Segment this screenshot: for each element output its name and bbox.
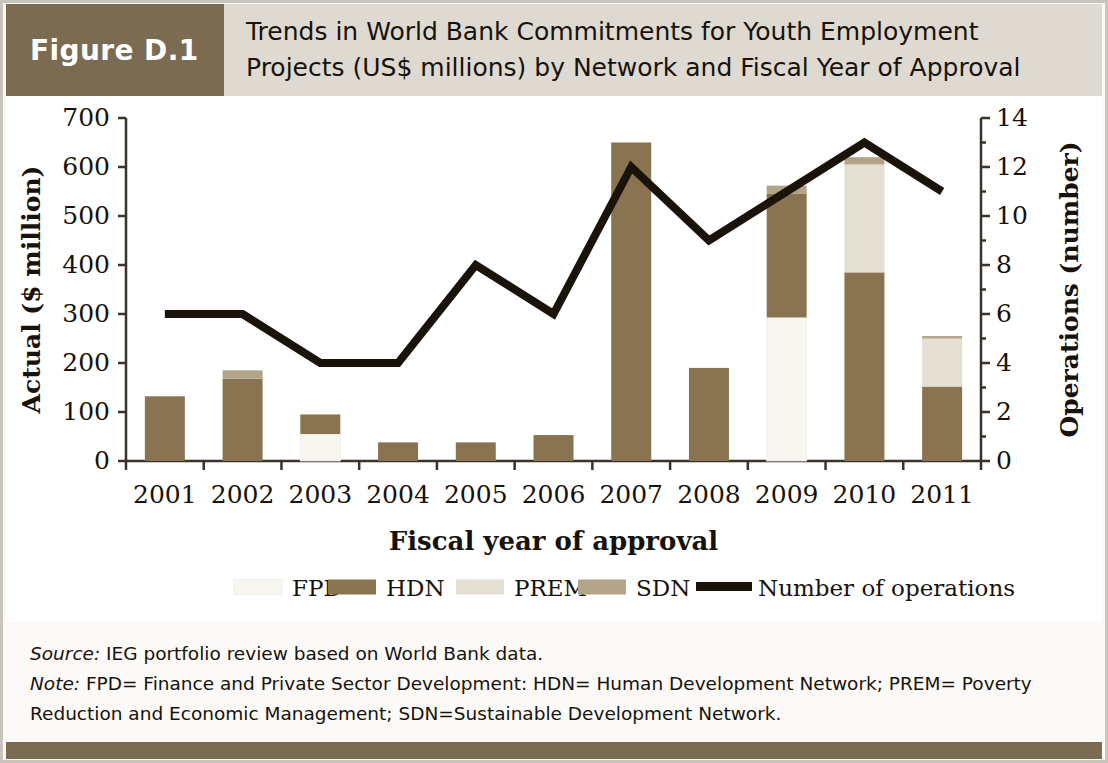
x-axis-tick-label: 2007 — [599, 480, 663, 509]
y-axis-left-tick-label: 700 — [62, 103, 110, 132]
legend-label: SDN — [636, 575, 690, 601]
x-axis-tick-label: 2003 — [289, 480, 353, 509]
bar-stack — [534, 435, 574, 461]
legend-swatch-fpd — [234, 580, 282, 595]
legend-label: HDN — [386, 575, 445, 601]
x-axis-tick-label: 2002 — [211, 480, 275, 509]
note-label: Note: — [30, 673, 80, 694]
bar-segment-hdn — [300, 414, 340, 434]
bar-stack — [223, 370, 263, 461]
bar-segment-sdn — [922, 336, 962, 338]
bar-segment-hdn — [534, 435, 574, 461]
y-axis-right-tick-label: 8 — [996, 250, 1012, 279]
y-axis-left-title: Actual ($ million) — [17, 166, 46, 415]
bar-segment-hdn — [689, 368, 729, 461]
bar-stack — [844, 157, 884, 461]
figure-title-line-1: Trends in World Bank Commitments for You… — [246, 14, 1092, 50]
bar-segment-hdn — [378, 442, 418, 461]
bar-segment-sdn — [223, 370, 263, 378]
source-text: IEG portfolio review based on World Bank… — [100, 643, 543, 664]
legend-swatch-prem — [456, 580, 504, 595]
x-axis-tick-label: 2001 — [133, 480, 197, 509]
y-axis-right-tick-label: 12 — [996, 152, 1028, 181]
stacked-bar-chart: 0100200300400500600700Actual ($ million)… — [6, 96, 1102, 621]
figure-notes: Source: IEG portfolio review based on Wo… — [30, 640, 1075, 730]
bar-segment-fpd — [300, 434, 340, 461]
note-note: Note: FPD= Finance and Private Sector De… — [30, 670, 1075, 698]
bar-segment-hdn — [844, 272, 884, 461]
x-axis-tick-label: 2009 — [755, 480, 819, 509]
figure-page: Figure D.1 Trends in World Bank Commitme… — [0, 0, 1108, 763]
source-label: Source: — [30, 643, 100, 664]
y-axis-left-tick-label: 600 — [62, 152, 110, 181]
figure-title: Trends in World Bank Commitments for You… — [224, 4, 1102, 96]
bar-stack — [689, 368, 729, 461]
bar-stack — [300, 414, 340, 461]
note-text-line-1: FPD= Finance and Private Sector Developm… — [80, 673, 1032, 694]
legend-label: Number of operations — [758, 575, 1015, 601]
figure-number-label: Figure D.1 — [30, 34, 199, 67]
x-axis-title: Fiscal year of approval — [389, 526, 719, 556]
y-axis-left-tick-label: 400 — [62, 250, 110, 279]
x-axis-tick-label: 2006 — [522, 480, 586, 509]
y-axis-right-tick-label: 6 — [996, 299, 1012, 328]
y-axis-right-tick-label: 10 — [996, 201, 1028, 230]
bar-stack — [378, 442, 418, 461]
operations-line — [165, 143, 942, 364]
y-axis-right-tick-label: 0 — [996, 446, 1012, 475]
footer-bar — [6, 742, 1102, 759]
bar-segment-hdn — [456, 442, 496, 461]
y-axis-right-tick-label: 2 — [996, 397, 1012, 426]
figure-header: Figure D.1 Trends in World Bank Commitme… — [6, 4, 1102, 96]
legend-swatch-hdn — [328, 580, 376, 595]
y-axis-left-tick-label: 300 — [62, 299, 110, 328]
y-axis-right-tick-label: 14 — [996, 103, 1028, 132]
bar-segment-fpd — [767, 317, 807, 461]
bar-stack — [456, 442, 496, 461]
bar-segment-hdn — [922, 387, 962, 461]
bar-segment-hdn — [145, 396, 185, 461]
x-axis-tick-label: 2005 — [444, 480, 508, 509]
legend-label: PREM — [514, 575, 587, 601]
y-axis-right-title: Operations (number) — [1055, 141, 1084, 437]
y-axis-left-tick-label: 100 — [62, 397, 110, 426]
legend-swatch-line — [696, 582, 752, 591]
bar-stack — [767, 186, 807, 461]
bar-segment-sdn — [844, 157, 884, 164]
y-axis-left-tick-label: 500 — [62, 201, 110, 230]
y-axis-right-tick-label: 4 — [996, 348, 1012, 377]
x-axis-tick-label: 2010 — [833, 480, 897, 509]
legend-swatch-sdn — [578, 580, 626, 595]
figure-title-line-2: Projects (US$ millions) by Network and F… — [246, 50, 1092, 86]
chart-container: 0100200300400500600700Actual ($ million)… — [6, 96, 1102, 621]
figure-number-tag: Figure D.1 — [6, 4, 224, 96]
y-axis-left-tick-label: 200 — [62, 348, 110, 377]
x-axis-tick-label: 2004 — [366, 480, 430, 509]
bar-segment-hdn — [767, 194, 807, 317]
x-axis-tick-label: 2008 — [677, 480, 741, 509]
y-axis-left-tick-label: 0 — [94, 446, 110, 475]
bar-stack — [145, 396, 185, 461]
bar-segment-prem — [922, 339, 962, 387]
legend: FPDHDNPREMSDNNumber of operations — [234, 575, 1015, 601]
bar-segment-prem — [844, 165, 884, 273]
source-note: Source: IEG portfolio review based on Wo… — [30, 640, 1075, 668]
bars-group — [145, 143, 962, 462]
bar-stack — [922, 336, 962, 461]
x-axis-tick-label: 2011 — [910, 480, 974, 509]
bar-segment-hdn — [223, 379, 263, 461]
note-text-line-2: Reduction and Economic Management; SDN=S… — [30, 700, 1075, 728]
